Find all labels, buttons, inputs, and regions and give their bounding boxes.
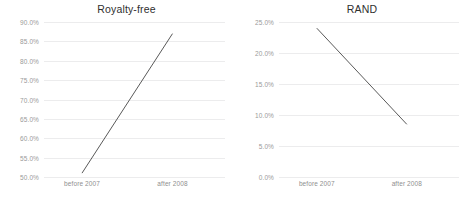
- y-axis-tick-label: 50.0%: [20, 174, 39, 181]
- y-axis-tick-label: 0.0%: [259, 174, 274, 181]
- y-axis-tick-label: 20.0%: [255, 50, 274, 57]
- chart-rand: RAND 25.0%20.0%15.0%10.0%5.0%0.0% before…: [231, 0, 463, 205]
- y-axis-tick-label: 65.0%: [20, 115, 39, 122]
- x-axis-labels: before 2007after 2008: [279, 180, 459, 194]
- y-axis-tick-label: 80.0%: [20, 57, 39, 64]
- chart-title: RAND: [231, 3, 463, 15]
- y-axis-tick-label: 75.0%: [20, 77, 39, 84]
- y-axis-tick-label: 5.0%: [259, 143, 274, 150]
- y-axis-tick-label: 15.0%: [255, 81, 274, 88]
- series-line: [44, 22, 225, 177]
- series-line: [279, 22, 459, 177]
- y-axis-tick-label: 90.0%: [20, 19, 39, 26]
- gridline: [279, 177, 459, 178]
- chart-royalty-free: Royalty-free 90.0%85.0%80.0%75.0%70.0%65…: [0, 0, 231, 205]
- y-axis-tick-label: 85.0%: [20, 38, 39, 45]
- x-axis-labels: before 2007after 2008: [44, 180, 225, 194]
- y-axis-tick-label: 55.0%: [20, 154, 39, 161]
- x-axis-category-label: before 2007: [64, 180, 100, 187]
- plot-area: 25.0%20.0%15.0%10.0%5.0%0.0%: [279, 22, 459, 177]
- data-series-line: [82, 34, 173, 174]
- y-axis-tick-label: 10.0%: [255, 112, 274, 119]
- data-series-line: [317, 28, 407, 124]
- plot-area: 90.0%85.0%80.0%75.0%70.0%65.0%60.0%55.0%…: [44, 22, 225, 177]
- charts-container: Royalty-free 90.0%85.0%80.0%75.0%70.0%65…: [0, 0, 463, 205]
- y-axis-tick-label: 60.0%: [20, 135, 39, 142]
- y-axis-tick-label: 70.0%: [20, 96, 39, 103]
- x-axis-category-label: after 2008: [392, 180, 422, 187]
- y-axis-tick-label: 25.0%: [255, 19, 274, 26]
- chart-title: Royalty-free: [0, 3, 231, 15]
- gridline: [44, 177, 225, 178]
- x-axis-category-label: before 2007: [299, 180, 335, 187]
- x-axis-category-label: after 2008: [157, 180, 187, 187]
